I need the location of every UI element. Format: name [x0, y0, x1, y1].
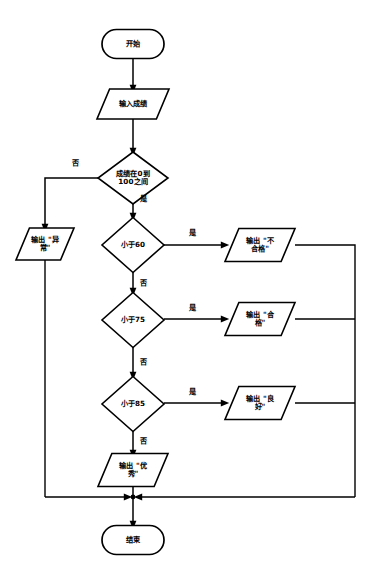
node-label-lt85: 小于85 — [120, 399, 145, 408]
node-label-out_abnormal: 常" — [40, 243, 51, 252]
edge-label-e_lt85_no: 否 — [139, 436, 148, 445]
flowchart-diagram: 开始输入成绩成绩在0到100之间输出 "异常"小于60输出 "不合格"小于75输… — [0, 0, 373, 580]
node-label-out_good: 好" — [254, 402, 266, 411]
merge-junction — [131, 495, 136, 500]
node-input_score[interactable]: 输入成绩 — [97, 89, 169, 119]
diagram-background — [0, 0, 373, 580]
node-label-out_fail: 合格" — [250, 244, 269, 253]
edge-label-e_range_yes: 是 — [139, 194, 148, 203]
edge-label-e_lt60_no: 否 — [139, 278, 148, 287]
edge-label-e_lt75_yes: 是 — [188, 303, 197, 312]
node-label-end: 结束 — [125, 535, 141, 544]
edge-label-e_lt85_yes: 是 — [188, 387, 197, 396]
node-label-out_excellent: 秀" — [127, 469, 139, 478]
node-label-start: 开始 — [126, 39, 141, 48]
edge-label-e_range_no: 否 — [71, 158, 80, 167]
node-label-lt60: 小于60 — [120, 240, 145, 249]
edge-label-e_lt60_yes: 是 — [188, 228, 197, 237]
node-end[interactable]: 结束 — [102, 526, 164, 555]
node-start[interactable]: 开始 — [102, 30, 164, 59]
node-label-lt75: 小于75 — [120, 315, 145, 324]
node-label-out_pass: 格" — [255, 318, 266, 327]
node-label-range_check: 100之间 — [118, 177, 148, 186]
edge-label-e_lt75_no: 否 — [139, 357, 148, 366]
node-label-input_score: 输入成绩 — [119, 99, 148, 108]
